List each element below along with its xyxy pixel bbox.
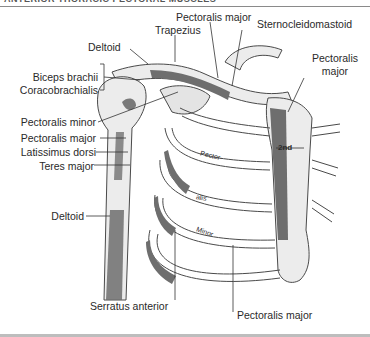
rib-text-alis: alis: [195, 191, 207, 205]
sternum: [266, 98, 312, 283]
humerus: [97, 77, 146, 300]
label-pectoralis-minor-left: Pectoralis minor: [0, 116, 96, 128]
label-latissimus-dorsi: Latissimus dorsi: [0, 146, 96, 158]
label-serratus-anterior: Serratus anterior: [90, 300, 168, 312]
rib-marker-2nd: 2nd: [278, 142, 292, 154]
label-deltoid-top: Deltoid: [88, 41, 121, 53]
label-teres-major: Teres major: [0, 160, 94, 172]
label-biceps-brachii: Biceps brachii: [0, 71, 98, 83]
label-coracobrachialis: Coracobrachialis: [0, 84, 98, 96]
label-deltoid-bottom: Deltoid: [0, 210, 84, 222]
label-trapezius: Trapezius: [155, 24, 201, 36]
label-pectoralis-major-top: Pectoralis major: [176, 11, 251, 23]
label-pectoralis-major-right-line1: Pectoralis: [300, 52, 370, 64]
label-sternocleidomastoid: Sternocleidomastoid: [257, 18, 352, 30]
label-pectoralis-major-right-line2: major: [300, 65, 370, 77]
label-pectoralis-major-left: Pectoralis major: [0, 132, 96, 144]
label-pectoralis-major-bottom: Pectoralis major: [237, 309, 312, 321]
